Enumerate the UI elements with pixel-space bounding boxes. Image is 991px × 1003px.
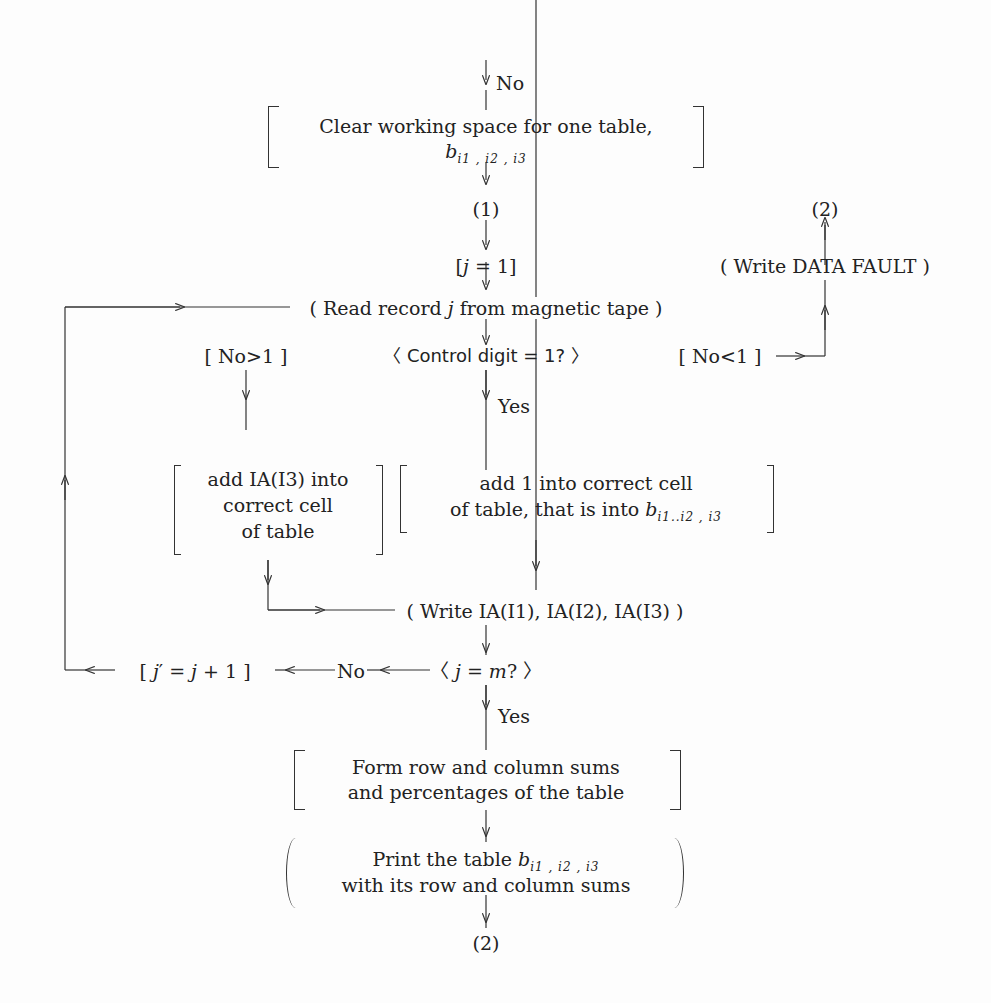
decision-j-equals-m: 〈 j = m? 〉 (430, 660, 542, 682)
add-one-line1: add 1 into correct cell (479, 472, 692, 494)
add-one-bracket-left (400, 465, 407, 533)
init-j: [j = 1] (456, 255, 517, 277)
write-ia: ( Write IA(I1), IA(I2), IA(I3) ) (407, 600, 684, 622)
clear-box-bracket-right (693, 106, 704, 168)
write-data-fault: ( Write DATA FAULT ) (720, 255, 930, 277)
no-label-loop: No (337, 660, 365, 682)
branch-no-lt-1: [ No<1 ] (679, 345, 762, 367)
entry-no-label: No (496, 72, 524, 94)
branch-no-gt-1: [ No>1 ] (205, 345, 288, 367)
yes-label-control: Yes (498, 395, 530, 417)
connector-1: (1) (473, 198, 500, 220)
print-table-line2: with its row and column sums (342, 874, 631, 896)
add-ia-line1: add IA(I3) into (208, 468, 349, 490)
add-one-bracket-right (767, 465, 774, 533)
clear-box-bracket-left (268, 106, 279, 168)
form-sums-bracket-left (294, 750, 305, 810)
clear-box-line1: Clear working space for one table, (319, 115, 652, 137)
add-ia-bracket-right (376, 465, 383, 555)
print-paren-left (286, 838, 305, 908)
add-one-line2: of table, that is into bi1..i2 , i3 (450, 498, 722, 528)
form-sums-line1: Form row and column sums (352, 756, 620, 778)
add-ia-line2: correct cell (223, 494, 333, 516)
add-ia-line3: of table (242, 520, 315, 542)
yes-label-jm: Yes (498, 705, 530, 727)
read-record: ( Read record j from magnetic tape ) (306, 297, 667, 319)
increment-j: [ j′ = j + 1 ] (139, 660, 250, 682)
form-sums-bracket-right (670, 750, 681, 810)
connector-2-top: (2) (812, 198, 839, 220)
decision-control-digit: 〈 Control digit = 1? 〉 (383, 345, 589, 367)
add-ia-bracket-left (174, 465, 181, 555)
clear-box-var: bi1 , i2 , i3 (445, 140, 526, 170)
connector-2-bottom: (2) (473, 932, 500, 954)
form-sums-line2: and percentages of the table (348, 781, 625, 803)
print-paren-right (665, 838, 684, 908)
